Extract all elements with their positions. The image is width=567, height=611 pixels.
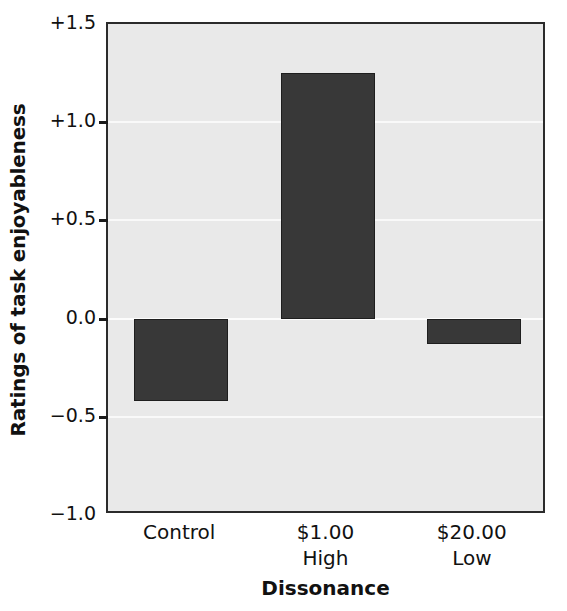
plot-inner: [108, 24, 543, 511]
y-tick-mark: [99, 121, 108, 124]
bar: [281, 73, 375, 319]
x-tick-label-group: Control: [143, 519, 215, 545]
x-tick-sublabel: High: [297, 545, 354, 571]
y-tick-label: +1.0: [50, 109, 96, 131]
x-tick-label: Control: [143, 519, 215, 545]
y-axis-title: Ratings of task enjoyableness: [0, 0, 36, 540]
bar: [134, 319, 228, 401]
bar-chart-figure: Ratings of task enjoyableness +1.5+1.0+0…: [0, 0, 567, 611]
y-tick-label: −0.5: [50, 404, 96, 426]
x-tick-label: $1.00: [297, 519, 354, 545]
x-tick-label-group: $20.00Low: [437, 519, 507, 571]
x-axis-tick-labels: Control$1.00High$20.00Low: [106, 519, 545, 581]
y-axis-tick-labels: +1.5+1.0+0.50.0−0.5−1.0: [36, 0, 100, 611]
plot-area: [106, 22, 545, 513]
x-axis-title: Dissonance: [106, 576, 545, 600]
y-tick-label: −1.0: [50, 502, 96, 524]
y-tick-label: +0.5: [50, 207, 96, 229]
y-tick-mark: [99, 416, 108, 419]
y-tick-label: 0.0: [66, 306, 96, 328]
gridline: [108, 416, 543, 418]
x-tick-label: $20.00: [437, 519, 507, 545]
bar: [427, 319, 521, 345]
y-tick-label: +1.5: [50, 11, 96, 33]
x-tick-label-group: $1.00High: [297, 519, 354, 571]
y-axis-title-text: Ratings of task enjoyableness: [6, 104, 30, 437]
y-tick-mark: [99, 219, 108, 222]
y-tick-mark: [99, 318, 108, 321]
x-tick-sublabel: Low: [437, 545, 507, 571]
